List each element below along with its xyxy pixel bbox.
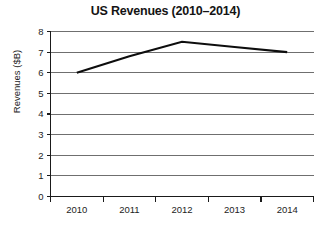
- x-tick-label: 2014: [277, 204, 298, 215]
- data-series-group: [77, 42, 287, 73]
- y-tick-label: 4: [38, 108, 43, 119]
- x-tick-label: 2010: [66, 204, 87, 215]
- y-tick-label: 1: [38, 170, 43, 181]
- y-tick-label: 6: [38, 67, 43, 78]
- y-tick-label: 7: [38, 47, 43, 58]
- plot-area: 012345678 20102011201220132014: [0, 0, 331, 230]
- chart-figure: US Revenues (2010–2014) Revenues ($B) 01…: [0, 0, 331, 230]
- y-tick-label: 8: [38, 26, 43, 37]
- x-tick-label: 2011: [119, 204, 139, 215]
- series-line: [77, 42, 287, 73]
- y-axis-ticks: 012345678: [38, 26, 50, 202]
- gridlines-group: [51, 32, 314, 197]
- y-tick-label: 0: [38, 191, 43, 202]
- x-axis-ticks: 20102011201220132014: [51, 197, 314, 215]
- y-tick-label: 3: [38, 129, 43, 140]
- y-tick-label: 5: [38, 88, 43, 99]
- y-tick-label: 2: [38, 150, 43, 161]
- x-tick-label: 2013: [224, 204, 245, 215]
- x-tick-label: 2012: [171, 204, 192, 215]
